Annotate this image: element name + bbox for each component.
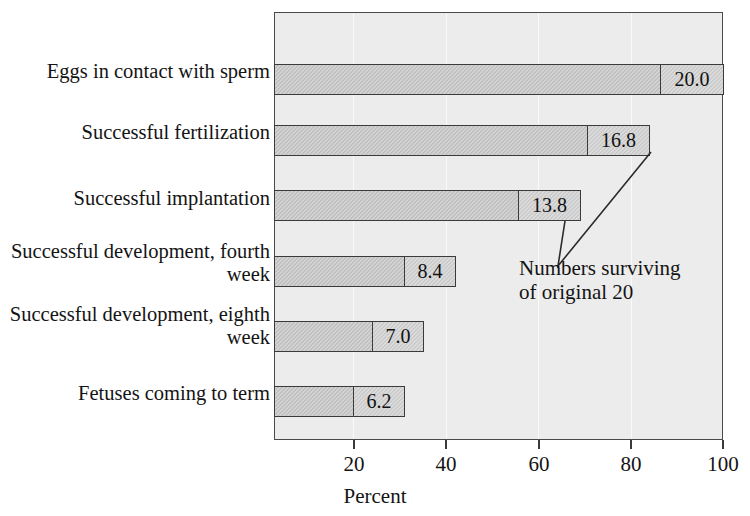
x-tick-label-80: 80	[601, 452, 661, 477]
bar-chart-figure: Eggs in contact with sperm Successful fe…	[0, 0, 750, 516]
annotation-label: Numbers surviving of original 20	[519, 257, 681, 305]
category-label: Fetuses coming to term	[2, 382, 270, 405]
category-label: Eggs in contact with sperm	[2, 60, 270, 83]
category-label: Successful development, fourth week	[2, 240, 270, 285]
bar-eggs-in-contact-with-sperm	[274, 64, 724, 95]
category-label: Successful fertilization	[2, 121, 270, 144]
value-label-successful-development-fourth-week: 8.4	[404, 256, 456, 287]
x-tick-label-60: 60	[509, 452, 569, 477]
x-tick-label-40: 40	[416, 452, 476, 477]
x-tick-40	[445, 440, 447, 449]
value-label-fetuses-coming-to-term: 6.2	[353, 386, 405, 417]
value-label-successful-development-eighth-week: 7.0	[372, 321, 424, 352]
value-label-successful-implantation: 13.8	[518, 190, 581, 221]
x-tick-100	[722, 440, 724, 449]
x-tick-20	[353, 440, 355, 449]
x-tick-80	[630, 440, 632, 449]
plot-area: 20.0 16.8 13.8 8.4 7.0 6.2	[274, 12, 723, 440]
x-tick-60	[538, 440, 540, 449]
value-label-successful-fertilization: 16.8	[587, 125, 650, 156]
category-label: Successful development, eighth week	[2, 303, 270, 348]
x-tick-label-100: 100	[693, 452, 750, 477]
category-label: Successful implantation	[2, 187, 270, 210]
x-axis-title: Percent	[0, 484, 750, 509]
value-label-eggs-in-contact-with-sperm: 20.0	[660, 64, 724, 95]
x-tick-label-20: 20	[324, 452, 384, 477]
